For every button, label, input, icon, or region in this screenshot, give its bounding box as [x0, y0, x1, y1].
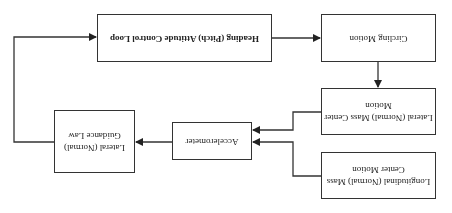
arrow-lateral-to-accelerometer: [253, 112, 321, 130]
guidance-law-box: Lateral (Normal) Guidance Law: [54, 110, 135, 173]
lateral-mass-center-motion-box: Lateral (Normal) Mass Center Motion: [321, 88, 436, 135]
accelerometer-label: Accelerometer: [186, 135, 239, 146]
arrow-longitudinal-to-accelerometer: [253, 142, 321, 176]
longitudinal-mass-center-motion-box: Longitudinal (Normal) Mass Center Motion: [321, 152, 436, 199]
heading-attitude-control-loop-box: Heading (Pitch) Attitude Control Loop: [97, 14, 272, 62]
circling-motion-label: Circling Motion: [349, 32, 407, 43]
circling-motion-box: Circling Motion: [321, 14, 436, 62]
lateral-mass-label: Lateral (Normal) Mass Center Motion: [324, 100, 433, 123]
longitudinal-mass-label: Longitudinal (Normal) Mass Center Motion: [324, 164, 433, 187]
guidance-law-label: Lateral (Normal) Guidance Law: [57, 130, 132, 153]
accelerometer-box: Accelerometer: [172, 122, 252, 160]
heading-loop-label: Heading (Pitch) Attitude Control Loop: [110, 32, 259, 43]
flow-diagram: Heading (Pitch) Attitude Control Loop Ci…: [0, 0, 452, 213]
